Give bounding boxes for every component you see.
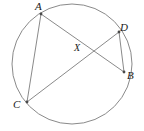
- point-label-d: D: [120, 22, 128, 33]
- point-b-dot: [123, 71, 126, 74]
- chord-cd: [27, 32, 119, 102]
- point-a-dot: [40, 13, 43, 16]
- point-label-c: C: [13, 99, 20, 110]
- figure-canvas: [0, 0, 144, 131]
- circle-outline: [12, 4, 132, 124]
- point-c-dot: [26, 101, 29, 104]
- point-label-a: A: [35, 1, 42, 12]
- point-label-x: X: [74, 42, 80, 53]
- chord-db: [119, 32, 124, 72]
- geometry-figure: A B C D X: [0, 0, 144, 131]
- point-label-b: B: [127, 70, 134, 81]
- chord-ab: [41, 14, 124, 72]
- chord-ac: [27, 14, 41, 102]
